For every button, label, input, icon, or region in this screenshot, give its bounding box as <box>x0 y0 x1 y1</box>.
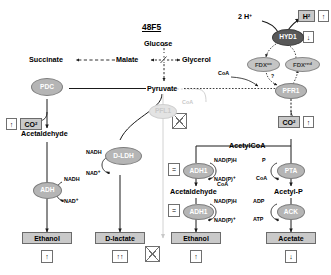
cofactor-atp-ack: ATP <box>253 217 263 222</box>
metabolite-glycerol: Glycerol <box>182 56 211 63</box>
label-question-mark: ? <box>271 74 274 79</box>
enzyme-pfr1: PFR1 <box>275 83 307 99</box>
indicator-co2-left: ↑ <box>6 118 17 130</box>
cofactor-nadph-upper: NAD(P)H <box>214 158 237 163</box>
metabolite-glucose: Glucose <box>144 40 172 47</box>
enzyme-hyd1: HYD1 <box>272 29 304 46</box>
cofactor-coa-pfl: CoA <box>182 100 193 105</box>
cofactor-nadph-lower: NAD(P)H <box>214 199 237 204</box>
cofactor-nadh-ldh: NADH <box>86 150 102 155</box>
metabolite-succinate: Succinate <box>29 56 63 63</box>
metabolite-box-ethanol-right: Ethanol <box>171 232 221 244</box>
enzyme-pta: PTA <box>277 163 305 179</box>
cofactor-nad-ldh: NAD+ <box>86 170 100 176</box>
pathway-diagram: 48F5 Glucose Glycerol Malate Succinate P… <box>0 0 331 275</box>
metabolite-acetylcoa: AcetylCoA <box>229 142 265 149</box>
indicator-pfl1-blocked-bottom <box>145 246 160 262</box>
cofactor-coa-upper: CoA <box>217 182 228 187</box>
metabolite-box-acetate: Acetate <box>266 232 316 244</box>
indicator-adh1-upper: = <box>168 163 180 176</box>
metabolite-box-d-lactate: D-lactate <box>95 232 145 244</box>
metabolite-acetaldehyde-left: Acetaldehyde <box>21 130 68 137</box>
indicator-acetate: ↓ <box>285 250 297 263</box>
indicator-h2: ↑ <box>318 10 329 22</box>
indicator-d-lactate: ↑↑ <box>112 250 128 263</box>
cofactor-p-pta: P <box>262 158 266 163</box>
enzyme-adh1-upper: ADH1 <box>183 163 214 179</box>
metabolite-acetyl-p: Acetyl-P <box>274 188 303 195</box>
metabolite-box-co2-right: CO2 <box>278 116 300 128</box>
cofactor-coa-top: CoA <box>218 71 229 76</box>
metabolite-malate: Malate <box>116 56 138 63</box>
cofactor-nadh-adh: NADH <box>64 177 80 182</box>
metabolite-acetaldehyde-right: Acetaldehyde <box>170 188 217 195</box>
enzyme-pdc: PDC <box>31 78 63 96</box>
cofactor-adp-ack: ADP <box>253 199 264 204</box>
enzyme-fdx-red: FDXred <box>285 57 320 72</box>
indicator-ethanol-right: ↑ <box>190 250 202 263</box>
indicator-hyd1: ↓ <box>303 31 314 43</box>
cofactor-coa-pta: CoA <box>256 176 267 181</box>
cofactor-nadp-lower: NAD(P)+ <box>214 217 236 223</box>
indicator-co2-right: ↑ <box>303 116 314 128</box>
indicator-ethanol-left: ↑ <box>41 250 53 263</box>
metabolite-box-co2-left: CO2 <box>20 118 42 130</box>
cofactor-nad-adh: NAD+ <box>64 198 78 204</box>
enzyme-pfl1: PFL1 <box>149 104 177 119</box>
indicator-adh1-lower: = <box>168 204 180 217</box>
enzyme-adh: ADH <box>33 182 62 199</box>
enzyme-adh1-lower: ADH1 <box>183 204 214 220</box>
metabolite-box-ethanol-left: Ethanol <box>22 232 72 244</box>
metabolite-pyruvate: Pyruvate <box>147 85 177 92</box>
metabolite-box-h2: H2 <box>298 10 315 22</box>
metabolite-two-h-plus: 2 H+ <box>238 13 252 20</box>
diagram-title: 48F5 <box>142 22 161 32</box>
enzyme-d-ldh: D-LDH <box>105 147 142 165</box>
enzyme-ack: ACK <box>277 204 305 220</box>
enzyme-fdx-ox: FDXox <box>247 57 280 72</box>
